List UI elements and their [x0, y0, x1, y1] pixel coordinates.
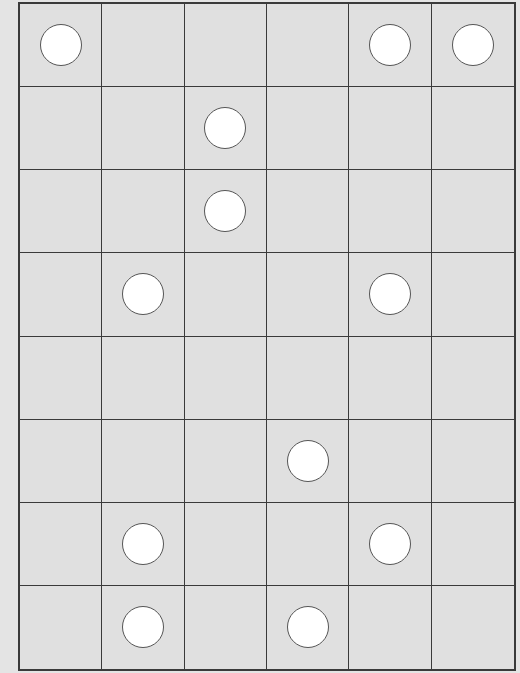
board-cell-r7-c2[interactable]: [185, 586, 267, 669]
board-cell-r5-c0[interactable]: [20, 420, 102, 503]
board-cell-r4-c2[interactable]: [185, 337, 267, 420]
board-cell-r2-c4[interactable]: [349, 170, 431, 253]
white-circle-piece[interactable]: [122, 273, 164, 315]
board-cell-r5-c2[interactable]: [185, 420, 267, 503]
board-cell-r0-c4[interactable]: [349, 4, 431, 87]
white-circle-piece[interactable]: [452, 24, 494, 66]
board-cell-r6-c1[interactable]: [102, 503, 184, 586]
board-cell-r6-c0[interactable]: [20, 503, 102, 586]
board-cell-r2-c3[interactable]: [267, 170, 349, 253]
board-cell-r7-c1[interactable]: [102, 586, 184, 669]
board-cell-r5-c1[interactable]: [102, 420, 184, 503]
board-cell-r2-c0[interactable]: [20, 170, 102, 253]
board-cell-r1-c1[interactable]: [102, 87, 184, 170]
white-circle-piece[interactable]: [122, 523, 164, 565]
board-cell-r0-c1[interactable]: [102, 4, 184, 87]
board-cell-r6-c2[interactable]: [185, 503, 267, 586]
board-cell-r0-c0[interactable]: [20, 4, 102, 87]
board-cell-r0-c2[interactable]: [185, 4, 267, 87]
white-circle-piece[interactable]: [40, 24, 82, 66]
white-circle-piece[interactable]: [204, 107, 246, 149]
board-cell-r4-c5[interactable]: [432, 337, 514, 420]
board-cell-r1-c4[interactable]: [349, 87, 431, 170]
board-cell-r0-c3[interactable]: [267, 4, 349, 87]
board-cell-r6-c4[interactable]: [349, 503, 431, 586]
board-cell-r4-c0[interactable]: [20, 337, 102, 420]
board-cell-r5-c5[interactable]: [432, 420, 514, 503]
board-cell-r7-c3[interactable]: [267, 586, 349, 669]
board-cell-r3-c2[interactable]: [185, 253, 267, 336]
board-cell-r2-c1[interactable]: [102, 170, 184, 253]
white-circle-piece[interactable]: [369, 523, 411, 565]
game-board: [18, 2, 516, 671]
white-circle-piece[interactable]: [369, 273, 411, 315]
board-cell-r2-c5[interactable]: [432, 170, 514, 253]
board-cell-r6-c3[interactable]: [267, 503, 349, 586]
board-cell-r1-c3[interactable]: [267, 87, 349, 170]
white-circle-piece[interactable]: [287, 606, 329, 648]
white-circle-piece[interactable]: [204, 190, 246, 232]
board-cell-r3-c5[interactable]: [432, 253, 514, 336]
board-cell-r1-c2[interactable]: [185, 87, 267, 170]
board-cell-r4-c3[interactable]: [267, 337, 349, 420]
board-cell-r6-c5[interactable]: [432, 503, 514, 586]
board-cell-r2-c2[interactable]: [185, 170, 267, 253]
board-cell-r4-c4[interactable]: [349, 337, 431, 420]
board-cell-r1-c0[interactable]: [20, 87, 102, 170]
white-circle-piece[interactable]: [122, 606, 164, 648]
board-cell-r3-c1[interactable]: [102, 253, 184, 336]
board-cell-r3-c0[interactable]: [20, 253, 102, 336]
board-cell-r7-c0[interactable]: [20, 586, 102, 669]
board-cell-r1-c5[interactable]: [432, 87, 514, 170]
board-cell-r0-c5[interactable]: [432, 4, 514, 87]
board-cell-r4-c1[interactable]: [102, 337, 184, 420]
white-circle-piece[interactable]: [369, 24, 411, 66]
board-cell-r3-c3[interactable]: [267, 253, 349, 336]
board-cell-r3-c4[interactable]: [349, 253, 431, 336]
board-cell-r5-c4[interactable]: [349, 420, 431, 503]
board-cell-r5-c3[interactable]: [267, 420, 349, 503]
board-cell-r7-c5[interactable]: [432, 586, 514, 669]
board-cell-r7-c4[interactable]: [349, 586, 431, 669]
white-circle-piece[interactable]: [287, 440, 329, 482]
